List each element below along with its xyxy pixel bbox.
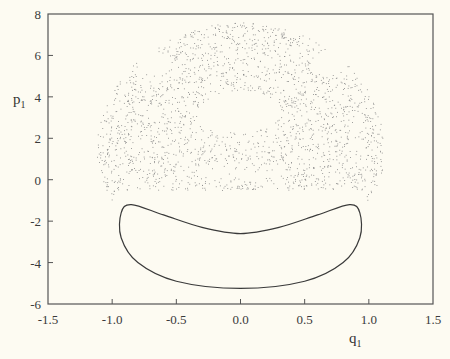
plot-canvas: -1.5-1.0-0.50.00.51.01.5 86420-2-4-6 p1 … bbox=[0, 0, 450, 359]
x-tick-label: 1.0 bbox=[361, 312, 377, 327]
y-tick-label: 0 bbox=[35, 173, 42, 188]
y-axis-label: p1 bbox=[13, 91, 26, 110]
y-tick-label: 4 bbox=[35, 90, 42, 105]
poincare-section-chart: -1.5-1.0-0.50.00.51.01.5 86420-2-4-6 p1 … bbox=[0, 0, 450, 359]
y-tick-label: -6 bbox=[30, 297, 41, 312]
x-tick-label: -1.0 bbox=[102, 312, 123, 327]
y-tick-label: 8 bbox=[35, 7, 42, 22]
x-axis-ticks: -1.5-1.0-0.50.00.51.01.5 bbox=[38, 299, 441, 327]
x-tick-label: -1.5 bbox=[38, 312, 59, 327]
x-tick-label: 0.5 bbox=[297, 312, 313, 327]
x-tick-label: 0.0 bbox=[232, 312, 248, 327]
x-tick-label: -0.5 bbox=[166, 312, 187, 327]
x-tick-label: 1.5 bbox=[425, 312, 441, 327]
x-axis-label: q1 bbox=[349, 330, 362, 349]
plot-frame bbox=[48, 14, 433, 304]
y-axis-ticks: 86420-2-4-6 bbox=[30, 7, 53, 312]
y-tick-label: -4 bbox=[30, 256, 41, 271]
y-tick-label: -2 bbox=[30, 214, 41, 229]
y-tick-label: 6 bbox=[35, 48, 42, 63]
regular-orbit-curve bbox=[119, 205, 361, 289]
chaotic-sea-points bbox=[97, 23, 383, 201]
y-tick-label: 2 bbox=[35, 131, 42, 146]
